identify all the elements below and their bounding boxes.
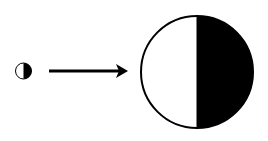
small-half-moon-icon xyxy=(16,63,32,79)
arrow-right-icon xyxy=(49,64,128,78)
diagram-canvas xyxy=(0,0,268,141)
large-half-moon-icon xyxy=(141,16,253,128)
